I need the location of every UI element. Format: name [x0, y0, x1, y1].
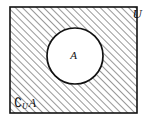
complement-label: ∁UA [14, 96, 36, 109]
complement-subscript: U [22, 103, 28, 111]
set-a-label: A [0, 50, 147, 61]
universe-label: U [133, 7, 142, 20]
complement-argument: A [29, 97, 36, 109]
set-complement-venn-diagram: U A ∁UA [0, 0, 147, 123]
complement-symbol-icon: ∁ [14, 96, 22, 109]
